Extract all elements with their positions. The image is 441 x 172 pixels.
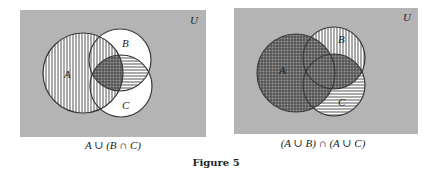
figure-title: Figure 5 — [192, 157, 239, 168]
caption-right: (A ∪ B) ∩ (A ∪ C) — [281, 137, 366, 150]
universe-label-right: U — [403, 11, 412, 23]
set-label-b-right: B — [338, 33, 345, 45]
set-label-a-left: A — [63, 68, 71, 80]
venn-diagram-right: U A B C (A ∪ B) ∩ (A ∪ C) — [234, 8, 418, 150]
universe-label-left: U — [190, 14, 199, 26]
set-label-b-left: B — [122, 37, 129, 49]
venn-diagram-left: U A B C A ∪ (B ∩ C) — [20, 10, 206, 152]
set-label-c-left: C — [122, 99, 130, 111]
set-label-c-right: C — [338, 96, 346, 108]
caption-left: A ∪ (B ∩ C) — [84, 139, 141, 152]
figure-canvas: U A B C A ∪ (B ∩ C) U — [0, 0, 441, 172]
set-label-a-right: A — [278, 64, 286, 76]
